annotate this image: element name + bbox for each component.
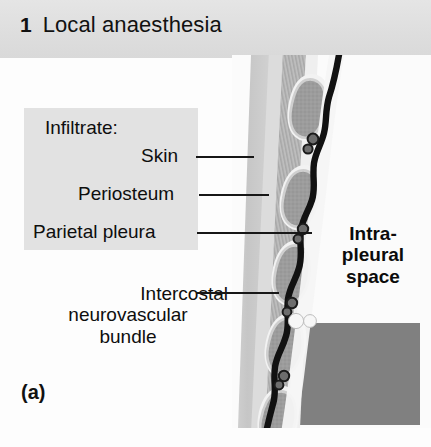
figure-panel: 1 Local anaesthesia: [0, 0, 431, 447]
subfigure-letter: (a): [21, 381, 45, 404]
leader-line-periosteum: [199, 194, 269, 196]
label-intercostal-line2: neurovascular: [28, 304, 228, 325]
air-bubble: [304, 315, 317, 328]
leader-line-skin: [196, 156, 254, 158]
figure-title-row: 1 Local anaesthesia: [20, 12, 222, 38]
air-bubble: [288, 313, 303, 328]
page-title: Local anaesthesia: [43, 12, 222, 38]
leader-line-parietal-pleura: [197, 232, 312, 234]
label-skin: Skin: [141, 146, 178, 166]
label-intrapleural-line1: Intra-: [330, 223, 416, 244]
leader-line-intercostal-bundle: [196, 292, 279, 294]
label-intrapleural-line2: pleural: [330, 244, 416, 265]
figure-number: 1: [20, 13, 32, 37]
label-infiltrate: Infiltrate:: [45, 118, 118, 138]
label-intercostal-line3: bundle: [28, 326, 228, 347]
label-parietal-pleura: Parietal pleura: [33, 222, 156, 242]
label-intrapleural-space: Intra- pleural space: [330, 223, 416, 287]
label-intrapleural-line3: space: [330, 266, 416, 287]
figure-title-band: 1 Local anaesthesia: [0, 0, 431, 58]
label-periosteum: Periosteum: [78, 184, 174, 204]
